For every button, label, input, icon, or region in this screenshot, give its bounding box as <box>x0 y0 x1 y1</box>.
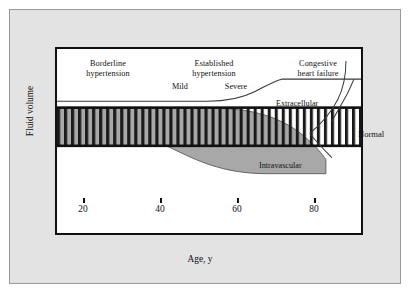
normal-reference-label: Normal <box>358 129 384 139</box>
figure-panel: Fluid volume <box>9 9 401 284</box>
x-tick-label: 60 <box>219 204 255 214</box>
zone-label-established: Established hypertension <box>169 59 259 78</box>
extracellular-curve <box>57 79 361 101</box>
x-axis-ticks: 20 40 60 80 <box>46 198 354 222</box>
series-label-extracellular: Extracellular <box>276 99 318 108</box>
series-label-intravascular: Intravascular <box>259 161 302 170</box>
x-axis-title: Age, y <box>46 254 354 264</box>
severity-label-mild: Mild <box>159 82 201 92</box>
x-tick-label: 20 <box>65 204 101 214</box>
x-tick-mark <box>314 198 316 203</box>
severity-label-severe: Severe <box>211 82 261 92</box>
zone-label-borderline: Borderline hypertension <box>65 59 151 78</box>
normal-band-bottom-rule <box>57 145 361 148</box>
figure-root: Fluid volume <box>0 0 416 294</box>
x-tick-label: 40 <box>142 204 178 214</box>
zone-label-congestive: Congestive heart failure <box>275 59 361 78</box>
y-axis-title: Fluid volume <box>25 63 35 159</box>
x-tick-label: 80 <box>296 204 332 214</box>
x-tick-mark <box>83 198 85 203</box>
x-tick-mark <box>160 198 162 203</box>
x-tick-mark <box>237 198 239 203</box>
